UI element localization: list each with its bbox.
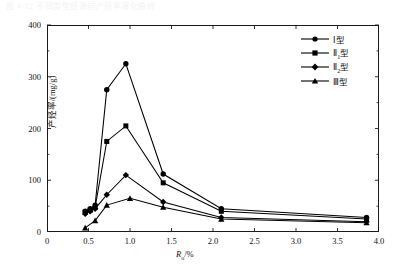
legend-item-type2a: Ⅱ1型 bbox=[300, 46, 376, 59]
legend-label-type2b-suffix: 型 bbox=[340, 62, 349, 72]
legend-triangle-icon bbox=[300, 75, 330, 87]
legend-label-type2a: Ⅱ1型 bbox=[333, 46, 349, 60]
legend-square-icon bbox=[300, 47, 330, 59]
legend-label-type2b: Ⅱ2型 bbox=[333, 60, 349, 74]
legend-label-type3: Ⅲ型 bbox=[333, 75, 348, 87]
chart-root: 图 4-12 不同类型烃源岩产烃率演化曲线 0 100 200 300 400 … bbox=[0, 0, 404, 272]
legend-diamond-icon bbox=[300, 61, 330, 73]
legend-circle-icon bbox=[300, 33, 330, 45]
series-4 bbox=[82, 195, 370, 230]
chart-legend: Ⅰ型 Ⅱ1型 Ⅱ2型 Ⅲ型 bbox=[298, 30, 378, 90]
legend-label-type1: Ⅰ型 bbox=[333, 33, 345, 45]
legend-item-type1: Ⅰ型 bbox=[300, 32, 376, 45]
legend-item-type2b: Ⅱ2型 bbox=[300, 60, 376, 73]
legend-label-type2a-suffix: 型 bbox=[340, 48, 349, 58]
legend-item-type3: Ⅲ型 bbox=[300, 74, 376, 87]
